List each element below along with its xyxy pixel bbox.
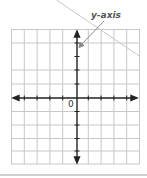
y-axis-up-arrow-icon <box>75 31 80 37</box>
annotation-pointer <box>79 21 104 48</box>
x-axis <box>13 96 137 101</box>
origin-label: 0 <box>68 99 74 109</box>
y-axis-down-arrow-icon <box>75 157 80 163</box>
coordinate-plane <box>0 0 147 178</box>
grid-lines <box>11 0 140 164</box>
x-axis-right-arrow-icon <box>131 96 137 101</box>
bottom-divider <box>0 174 147 176</box>
y-axis <box>75 31 80 163</box>
x-axis-left-arrow-icon <box>13 96 19 101</box>
y-axis-annotation-label: y-axis <box>91 10 121 20</box>
